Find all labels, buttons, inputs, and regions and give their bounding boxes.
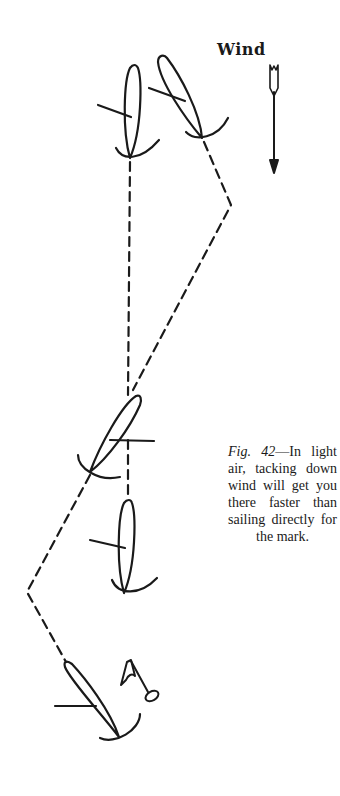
caption-text: In light air, tacking down wind will get… xyxy=(228,444,337,544)
wind-arrow-icon xyxy=(270,65,278,173)
boat-icon xyxy=(98,65,159,158)
boat-icon xyxy=(78,396,154,478)
caption-dash: — xyxy=(275,444,289,459)
boat-icon xyxy=(55,662,140,740)
boat-icon xyxy=(90,500,157,593)
boat-icon xyxy=(149,56,228,138)
figure-number: Fig. 42 xyxy=(228,444,275,459)
wind-label: Wind xyxy=(217,40,266,59)
figure-caption: Fig. 42—In light air, tacking down wind … xyxy=(228,443,337,545)
mark-buoy-icon xyxy=(121,660,160,703)
sailing-diagram xyxy=(0,0,340,796)
